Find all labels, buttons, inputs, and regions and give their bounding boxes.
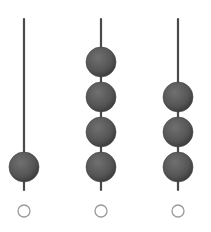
abacus (0, 0, 211, 232)
bead (86, 152, 116, 182)
answer-circle-2[interactable] (95, 205, 107, 217)
abacus-rod-1 (9, 19, 39, 217)
abacus-rod-2 (86, 19, 116, 217)
bead (163, 117, 193, 147)
bead (86, 47, 116, 77)
answer-circle-1[interactable] (18, 205, 30, 217)
bead (9, 152, 39, 182)
answer-circle-3[interactable] (172, 205, 184, 217)
bead (86, 82, 116, 112)
abacus-rod-3 (163, 19, 193, 217)
bead (86, 117, 116, 147)
bead (163, 82, 193, 112)
bead (163, 152, 193, 182)
